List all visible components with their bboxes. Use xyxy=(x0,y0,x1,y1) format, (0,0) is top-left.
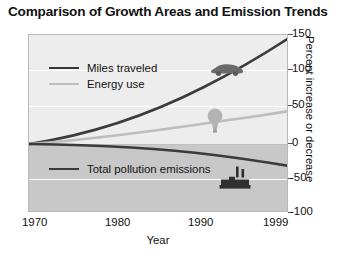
series-line-energy-use xyxy=(29,111,288,144)
ytick-label-50: 50 xyxy=(292,98,305,110)
series-line-miles-traveled xyxy=(29,38,288,144)
plot-area: Miles traveled Energy use Total pollutio… xyxy=(28,34,288,212)
legend-swatch-miles-traveled xyxy=(49,67,79,70)
legend-swatch-energy-use xyxy=(49,83,79,86)
legend-item-energy-use: Energy use xyxy=(49,78,145,90)
xtick-label-1990: 1990 xyxy=(188,216,213,228)
legend-label-energy-use: Energy use xyxy=(87,78,145,90)
legend-label-miles-traveled: Miles traveled xyxy=(87,62,157,74)
y-axis-title: Percent increase or decrease xyxy=(304,36,316,186)
ytick-label-0: 0 xyxy=(292,136,298,148)
chart-title: Comparison of Growth Areas and Emission … xyxy=(8,4,352,20)
legend-label-total-pollution-emissions: Total pollution emissions xyxy=(87,163,210,175)
legend-swatch-total-pollution-emissions xyxy=(49,168,79,171)
chart-figure: Comparison of Growth Areas and Emission … xyxy=(0,0,358,261)
x-axis-title: Year xyxy=(0,234,316,246)
xtick-label-1980: 1980 xyxy=(105,216,130,228)
legend-item-miles-traveled: Miles traveled xyxy=(49,62,157,74)
xtick-label-1970: 1970 xyxy=(22,216,47,228)
ytick-label-minus-100: -100 xyxy=(290,205,313,217)
xtick-label-1999: 1999 xyxy=(263,216,288,228)
legend-item-total-pollution-emissions: Total pollution emissions xyxy=(49,163,210,175)
